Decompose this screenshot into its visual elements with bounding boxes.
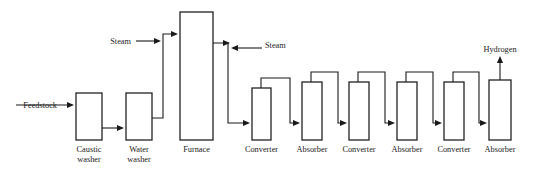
furnace-in-arrow [171,31,178,37]
stream-label-hydrogen: Hydrogen [483,45,517,54]
caustic-out-arrow [117,125,124,131]
stream-label-steam-1: Steam [110,37,131,46]
vessel-converter-1 [252,88,271,140]
vessel-furnace [180,12,213,140]
label-absorber-2: Absorber [392,145,423,154]
label-absorber-1: Absorber [297,145,328,154]
label-converter-1: Converter [245,145,278,154]
feedstock-arrow [67,102,74,108]
vessel-absorber-2 [397,82,417,140]
label-caustic-washer-line2: washer [77,155,101,164]
converter3-in-arrow [435,120,442,126]
converter1-in-arrow [243,120,250,126]
water-to-furnace-pipe [152,34,176,118]
label-furnace: Furnace [183,145,210,154]
absorber3-in-arrow [480,120,487,126]
vessel-absorber-3 [489,80,511,140]
label-water-washer: Water [129,145,149,154]
steam1-arrow [154,38,161,44]
label-converter-2: Converter [342,145,375,154]
hydrogen-arrow [497,56,503,63]
flow-diagram-canvas: CausticwasherWaterwasherFurnaceConverter… [0,0,533,175]
vessel-converter-3 [444,82,464,140]
steam2-arrow [231,45,238,51]
label-water-washer-line2: washer [127,155,151,164]
label-converter-3: Converter [437,145,470,154]
vessel-caustic-washer [76,93,102,140]
furnace-out-arrow [223,40,230,46]
process-flow-diagram: CausticwasherWaterwasherFurnaceConverter… [0,0,533,175]
absorber1-in-arrow [293,120,300,126]
stream-label-steam-2: Steam [265,41,286,50]
vessel-labels-layer: CausticwasherWaterwasherFurnaceConverter… [77,145,516,164]
vessel-absorber-1 [302,82,322,140]
label-absorber-3: Absorber [485,145,516,154]
stream-label-feedstock: Feedstock [23,101,57,110]
vessel-water-washer [126,93,152,140]
furnace-to-converter1-pipe [213,43,248,123]
absorber2-in-arrow [388,120,395,126]
label-caustic-washer: Caustic [77,145,102,154]
vessel-converter-2 [349,82,369,140]
converter2-in-arrow [340,120,347,126]
